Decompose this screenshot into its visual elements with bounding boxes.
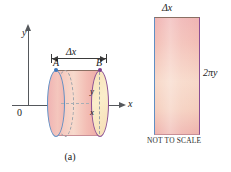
figure-root: y x 0 Δx A B y x [0,0,231,172]
cylinder-center-dash [99,72,100,134]
rect-width-label: Δx [162,3,172,13]
x-axis-label: x [128,99,132,109]
not-to-scale-note: NOT TO SCALE [147,137,201,144]
x-axis-arrow-icon [119,102,126,108]
panel-a: y x 0 Δx A B y x [0,0,140,172]
inner-x-label: x [90,108,94,117]
inner-y-label: y [90,87,94,96]
point-a-label: A [53,58,59,68]
measure-tick-right [106,54,107,63]
unrolled-shell-rectangle [154,17,200,135]
delta-x-label: Δx [65,47,77,57]
rect-height-label: 2πy [203,68,217,78]
y-axis-label: y [22,28,26,38]
panel-a-caption: (a) [50,152,90,162]
cylinder-shell [47,70,109,136]
panel-b: Δx 2πy NOT TO SCALE (b) [140,0,231,172]
point-a-dot [54,68,58,72]
y-axis-line [28,30,29,106]
point-b-label: B [96,58,102,68]
point-b-dot [98,68,102,72]
origin-label: 0 [17,108,22,118]
cylinder-right-cap [91,70,109,137]
